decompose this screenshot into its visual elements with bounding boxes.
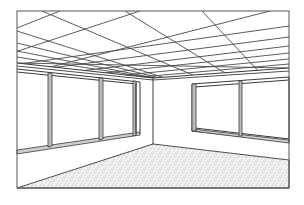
right-wall-windows <box>192 77 289 143</box>
ceiling-tile-grid <box>0 11 289 90</box>
room-illustration <box>0 0 304 205</box>
room-drawing <box>0 0 304 205</box>
carpet-floor <box>17 144 289 188</box>
left-wall-windows <box>17 69 140 154</box>
